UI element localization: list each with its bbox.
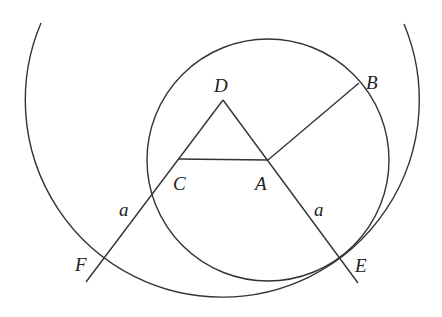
label-B: B [366, 72, 378, 93]
label-F: F [74, 254, 87, 275]
label-A: A [253, 173, 267, 194]
segment-label-CF: a [119, 199, 129, 220]
diagram-canvas: D B C A F E a a [0, 0, 442, 317]
label-D: D [213, 75, 228, 96]
segment-CA [178, 159, 268, 160]
label-E: E [354, 255, 367, 276]
segment-label-AE: a [314, 199, 324, 220]
label-C: C [173, 173, 186, 194]
line-DE [223, 100, 358, 283]
segment-AB [268, 83, 359, 160]
line-DF [86, 100, 223, 282]
geometry-diagram: D B C A F E a a [0, 0, 442, 317]
